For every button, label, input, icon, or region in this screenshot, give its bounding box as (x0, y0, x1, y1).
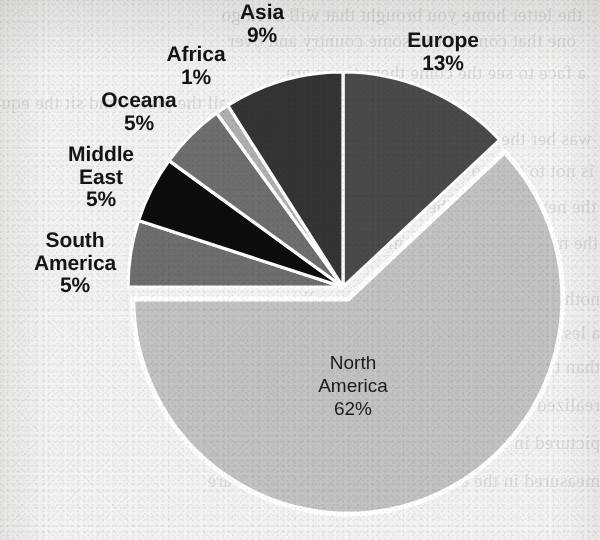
pie-slice-group (128, 72, 563, 514)
slice-label-africa: Africa 1% (148, 44, 244, 89)
slice-label-middle-east: Middle East 5% (46, 144, 156, 212)
scanned-page: the letter home you brought that will ev… (0, 0, 600, 540)
slice-label-oceana: Oceana 5% (84, 90, 194, 135)
slice-label-europe: Europe 13% (388, 30, 498, 75)
slice-label-north-america: North America 62% (288, 352, 418, 420)
slice-label-asia: Asia 9% (216, 2, 308, 47)
slice-label-south-america: South America 5% (10, 230, 140, 298)
